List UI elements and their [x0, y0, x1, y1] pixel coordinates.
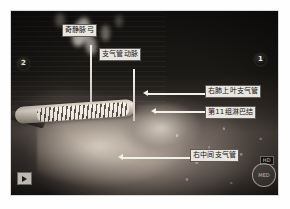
arrow-head-station-11-lymph-node	[151, 108, 156, 114]
leader-line-bronchial-artery	[133, 69, 135, 121]
highlight-blob	[115, 15, 123, 27]
view-marker-2: 2	[18, 58, 29, 69]
annotation-label-station-11-lymph-node: 第11组淋巴结	[205, 106, 256, 119]
annotation-label-azygos-arch: 奇静脉弓	[62, 24, 97, 37]
play-button[interactable]	[17, 172, 32, 185]
annotation-label-right-intermediate-bronchus: 右中间支气管	[190, 149, 239, 162]
annotation-label-bronchial-artery: 支气管动脉	[99, 48, 141, 61]
annotation-label-right-upper-lobe-bronchus: 右肺上叶支气管	[205, 85, 261, 98]
figure-container: 2 1 HD MED 奇静脉弓 支气管动脉 右肺上叶支气管 第11组淋巴结 右中…	[0, 0, 290, 209]
highlight-blob	[101, 25, 110, 41]
view-marker-1: 1	[255, 54, 266, 65]
leader-line-azygos-arch	[90, 45, 92, 104]
watermark-logo: MED	[252, 163, 276, 187]
play-icon	[22, 176, 27, 182]
leader-line-right-intermediate-bronchus	[123, 157, 199, 159]
arrow-head-right-upper-lobe-bronchus	[143, 90, 148, 96]
arrow-head-right-intermediate-bronchus	[118, 154, 123, 160]
endoscopic-photo: 2 1 HD MED 奇静脉弓 支气管动脉 右肺上叶支气管 第11组淋巴结 右中…	[11, 11, 278, 195]
